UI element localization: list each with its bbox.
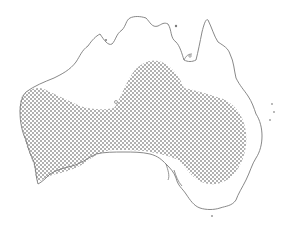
distribution-map xyxy=(0,0,296,234)
island-marker xyxy=(189,55,191,57)
inland-lake-marker xyxy=(115,101,118,104)
island-marker xyxy=(273,111,275,113)
island-marker xyxy=(271,103,273,105)
island-marker xyxy=(105,39,107,41)
distribution-range xyxy=(20,61,247,185)
island-marker xyxy=(269,119,271,121)
island-marker xyxy=(175,25,177,27)
gulf-detail xyxy=(166,164,182,186)
australia-map-svg xyxy=(0,0,296,234)
tasmania-stub xyxy=(211,215,213,217)
